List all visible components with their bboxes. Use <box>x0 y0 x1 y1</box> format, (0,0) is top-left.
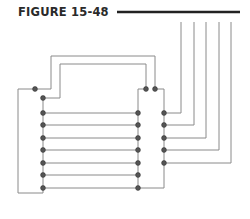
node <box>41 148 46 153</box>
lead-3 <box>164 22 206 138</box>
node <box>41 186 46 191</box>
node <box>41 173 46 178</box>
node <box>136 186 141 191</box>
node <box>153 87 158 92</box>
lead-2 <box>164 22 194 125</box>
node <box>136 123 141 128</box>
wiring-diagram <box>0 0 250 219</box>
node <box>162 161 167 166</box>
node <box>41 123 46 128</box>
top-wire-outer <box>35 56 155 89</box>
node <box>41 111 46 116</box>
node <box>144 87 149 92</box>
node <box>162 148 167 153</box>
node <box>33 87 38 92</box>
node <box>136 111 141 116</box>
node <box>136 173 141 178</box>
node <box>41 136 46 141</box>
node <box>162 136 167 141</box>
lead-4 <box>164 22 219 150</box>
left-return <box>18 89 43 193</box>
top-wire-inner <box>43 64 146 98</box>
node <box>136 161 141 166</box>
lead-5 <box>164 22 231 163</box>
lead-1 <box>164 22 181 113</box>
node <box>162 123 167 128</box>
node <box>136 148 141 153</box>
node <box>41 161 46 166</box>
node <box>162 111 167 116</box>
node <box>136 136 141 141</box>
node <box>41 96 46 101</box>
